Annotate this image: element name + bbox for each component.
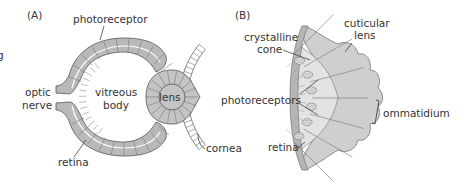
label-vitreous-2: body — [103, 99, 129, 111]
panel-a: (A) photoreceptor optic nerve vitreous b… — [22, 9, 242, 168]
photoreceptor-spike — [83, 78, 89, 81]
photoreceptor-spike — [90, 68, 95, 73]
photoreceptor-spike — [83, 112, 89, 115]
label-cuticular-2: lens — [354, 29, 376, 41]
photoreceptor-spike — [98, 128, 102, 134]
cornea-segment — [193, 53, 200, 57]
label-retina-a: retina — [58, 156, 89, 168]
cornea-segment — [190, 57, 197, 61]
photoreceptor-spike — [86, 73, 92, 77]
label-retina-b: retina — [268, 141, 299, 153]
label-ommatidium: ommatidium — [383, 107, 450, 119]
photoreceptor-spike — [81, 84, 88, 86]
leader-photoreceptor — [100, 26, 104, 40]
clipped-text: g — [0, 49, 4, 61]
label-cuticular-1: cuticular — [344, 17, 390, 29]
label-vitreous-1: vitreous — [95, 86, 137, 98]
axon-spike — [286, 130, 292, 135]
cornea-segment — [190, 133, 197, 137]
cornea-segment — [196, 48, 202, 53]
leader-retina-a — [74, 140, 86, 157]
panel-b: (B) crystalline cone cuticular lens phot… — [221, 9, 450, 181]
label-lens: lens — [159, 91, 181, 103]
cornea-segment — [184, 120, 192, 123]
eye-comparison-diagram: g (A) photoreceptor optic nerve vitreous… — [0, 0, 461, 184]
photoreceptor-spike — [79, 102, 86, 103]
cornea-segment — [186, 67, 193, 70]
cornea-segment — [188, 129, 195, 132]
label-crystalline-2: cone — [257, 43, 282, 55]
photoreceptor-spike — [89, 121, 95, 125]
cornea-segment — [199, 44, 205, 49]
cornea-segment — [184, 71, 192, 74]
photoreceptor-spike — [93, 125, 98, 130]
panel-b-tag: (B) — [235, 9, 250, 21]
label-cornea: cornea — [206, 142, 242, 154]
photoreceptor-spike — [85, 117, 91, 121]
panel-a-tag: (A) — [27, 9, 42, 21]
label-crystalline-1: crystalline — [244, 31, 298, 43]
photoreceptor-spike — [81, 107, 88, 109]
photoreceptor-spike — [80, 90, 87, 91]
cornea-segment — [188, 62, 195, 65]
label-optic-2: nerve — [22, 99, 52, 111]
label-photoreceptors: photoreceptors — [221, 94, 301, 106]
photoreceptor-spike — [95, 63, 100, 68]
cornea-segment — [186, 125, 193, 128]
label-optic-1: optic — [25, 86, 51, 98]
label-photoreceptor: photoreceptor — [73, 13, 148, 25]
